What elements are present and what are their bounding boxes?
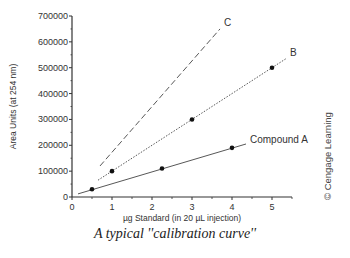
y-tick-label: 100000 xyxy=(38,166,68,176)
copyright-credit: © Cengage Learning xyxy=(322,112,333,200)
y-axis-label: Area Units (at 254 nm) xyxy=(8,64,18,150)
data-point xyxy=(270,65,275,70)
x-tick-label: 0 xyxy=(69,202,74,212)
x-tick-label: 4 xyxy=(229,202,234,212)
x-tick-label: 5 xyxy=(269,202,274,212)
figure-caption: A typical ''calibration curve'' xyxy=(0,226,350,242)
x-tick-label: 3 xyxy=(189,202,194,212)
y-tick-label: 400000 xyxy=(38,89,68,99)
data-point xyxy=(110,169,115,174)
y-tick-label: 700000 xyxy=(38,11,68,21)
data-point xyxy=(230,146,235,151)
y-tick-label: 0 xyxy=(63,192,68,202)
y-tick-label: 300000 xyxy=(38,114,68,124)
data-point xyxy=(190,117,195,122)
series-label: B xyxy=(290,47,297,58)
y-tick-label: 200000 xyxy=(38,140,68,150)
x-axis-label: µg Standard (in 20 µL injection) xyxy=(123,213,241,223)
x-tick-label: 1 xyxy=(109,202,114,212)
y-tick-label: 500000 xyxy=(38,63,68,73)
x-tick-label: 2 xyxy=(149,202,154,212)
series-label: C xyxy=(224,17,231,28)
data-point xyxy=(90,187,95,192)
calibration-chart: 0100000200000300000400000500000600000700… xyxy=(0,0,350,258)
series-label: Compound A xyxy=(250,134,308,145)
y-tick-label: 600000 xyxy=(38,37,68,47)
series-line xyxy=(100,29,220,166)
data-point xyxy=(160,166,165,171)
